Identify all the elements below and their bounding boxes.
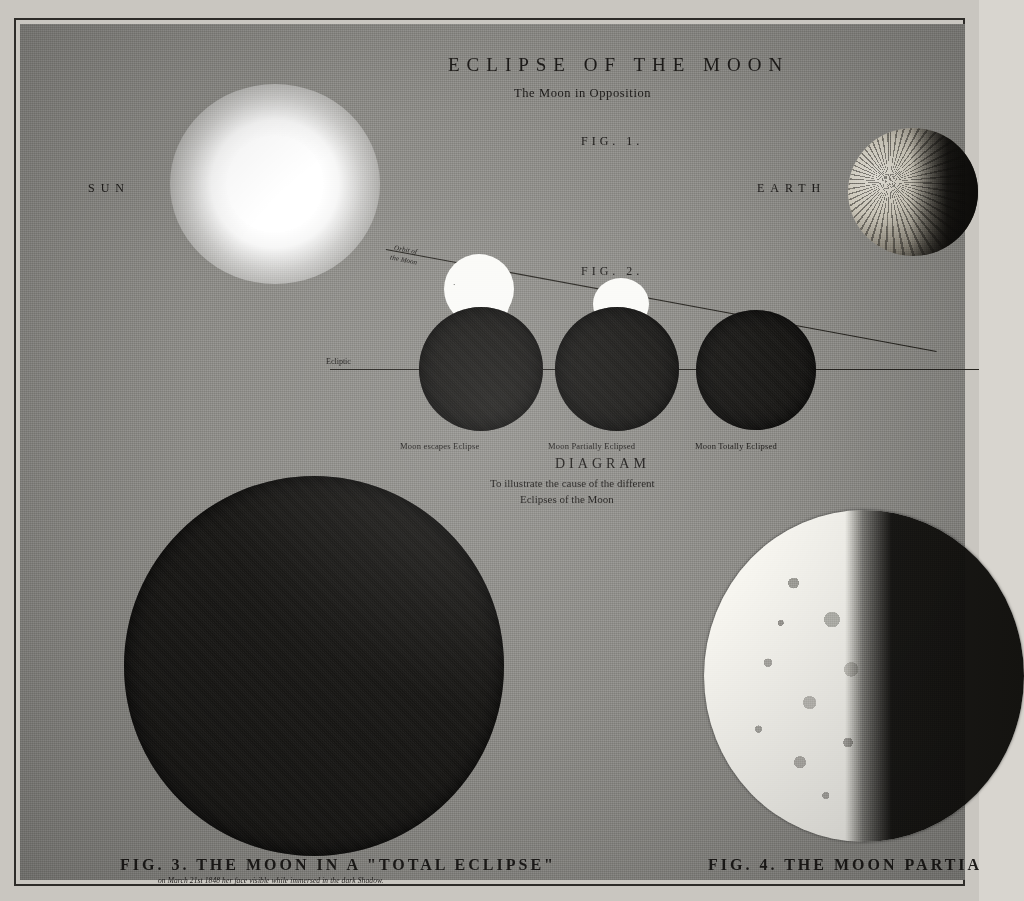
plate-field: SUN ECLIPSE OF THE MOON The Moon in Oppo… xyxy=(20,24,965,880)
fig2-label: FIG. 2. xyxy=(581,264,643,279)
fig3-caption: FIG. 3. THE MOON IN A "TOTAL ECLIPSE" xyxy=(120,856,556,874)
plate-title: ECLIPSE OF THE MOON xyxy=(448,54,789,76)
fig4-caption: FIG. 4. THE MOON PARTIA xyxy=(708,856,982,874)
plate-subtitle: The Moon in Opposition xyxy=(514,86,651,101)
ecliptic-label: Ecliptic xyxy=(326,357,351,366)
earth-shadow-cone xyxy=(910,128,978,256)
sun-glow xyxy=(170,84,380,284)
fig4-partial-eclipse-moon xyxy=(704,510,1024,842)
phase-caption-1: Moon escapes Eclipse xyxy=(400,441,480,451)
sun-label: SUN xyxy=(88,181,130,196)
phase-caption-2: Moon Partially Eclipsed xyxy=(548,441,635,451)
moon-umbra-shadow xyxy=(845,510,1024,842)
phase-disc-3 xyxy=(696,310,816,430)
diagram-line-2: Eclipses of the Moon xyxy=(520,493,614,505)
earth-label: EARTH xyxy=(757,181,826,196)
phase-disc-2 xyxy=(555,307,679,431)
fig3-note: on March 21st 1848 her face visible whil… xyxy=(158,876,384,885)
fig1-label: FIG. 1. xyxy=(581,134,643,149)
diagram-line-1: To illustrate the cause of the different xyxy=(490,477,655,489)
phase-caption-3: Moon Totally Eclipsed xyxy=(695,441,777,451)
phase-disc-1 xyxy=(419,307,543,431)
diagram-heading: DIAGRAM xyxy=(555,456,650,472)
earth-globe xyxy=(848,128,978,256)
fig3-total-eclipse-moon xyxy=(124,476,504,856)
